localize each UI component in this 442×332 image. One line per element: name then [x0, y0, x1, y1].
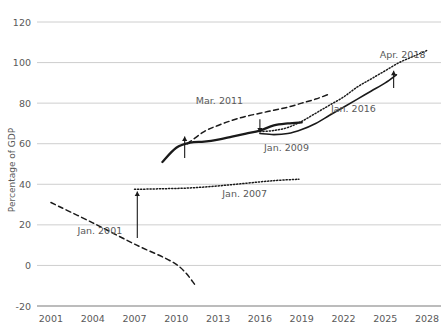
- data-series-group: [51, 50, 427, 285]
- x-tick-label: 2001: [39, 313, 63, 324]
- series-text-annotations-group: Jan. 2001Jan. 2007Jan. 2009Mar. 2011Jan.…: [76, 49, 425, 236]
- y-tick-label: -20: [15, 301, 31, 312]
- y-tick-label: 100: [13, 57, 31, 68]
- arrow-head: [182, 137, 187, 142]
- y-tick-label: 80: [19, 98, 31, 109]
- arrow-2009-to-2011: [182, 137, 187, 158]
- arrow-head: [391, 71, 396, 76]
- series-annotation-label: Jan. 2016: [330, 103, 376, 114]
- x-tick-label: 2013: [206, 313, 230, 324]
- y-tick-label: 120: [13, 17, 31, 28]
- x-tick-label: 2004: [81, 313, 105, 324]
- x-tick-label: 2022: [331, 313, 355, 324]
- y-tick-label: 0: [25, 260, 31, 271]
- gridlines-group: [37, 22, 441, 306]
- chart-figure: 120100806040200-20 200120042007201020132…: [0, 0, 442, 332]
- x-tick-label: 2025: [373, 313, 397, 324]
- x-tick-label: 2028: [415, 313, 439, 324]
- x-tick-label: 2007: [122, 313, 146, 324]
- x-tick-label: 2010: [164, 313, 188, 324]
- y-tick-label: 60: [19, 138, 31, 149]
- x-tick-label: 2016: [248, 313, 272, 324]
- series-annotation-label: Jan. 2009: [263, 142, 309, 153]
- series-annotation-label: Apr. 2018: [380, 49, 426, 60]
- series-line-jan-2001: [51, 203, 196, 286]
- arrow-2007-to-2009: [135, 191, 140, 238]
- arrow-annotations-group: [135, 71, 397, 238]
- arrow-2016-to-2018: [391, 71, 396, 88]
- x-axis-tick-labels: 2001200420072010201320162019202220252028: [39, 313, 439, 324]
- arrow-head: [135, 191, 140, 196]
- series-annotation-label: Jan. 2001: [76, 225, 122, 236]
- chart-canvas: 120100806040200-20 200120042007201020132…: [0, 0, 442, 332]
- series-annotation-label: Jan. 2007: [221, 188, 267, 199]
- series-annotation-label: Mar. 2011: [196, 95, 243, 106]
- y-tick-label: 40: [19, 179, 31, 190]
- y-tick-label: 20: [19, 219, 31, 230]
- series-line-jan-2016: [260, 75, 397, 135]
- y-axis-title: Percentage of GDP: [7, 127, 17, 212]
- x-tick-label: 2019: [290, 313, 314, 324]
